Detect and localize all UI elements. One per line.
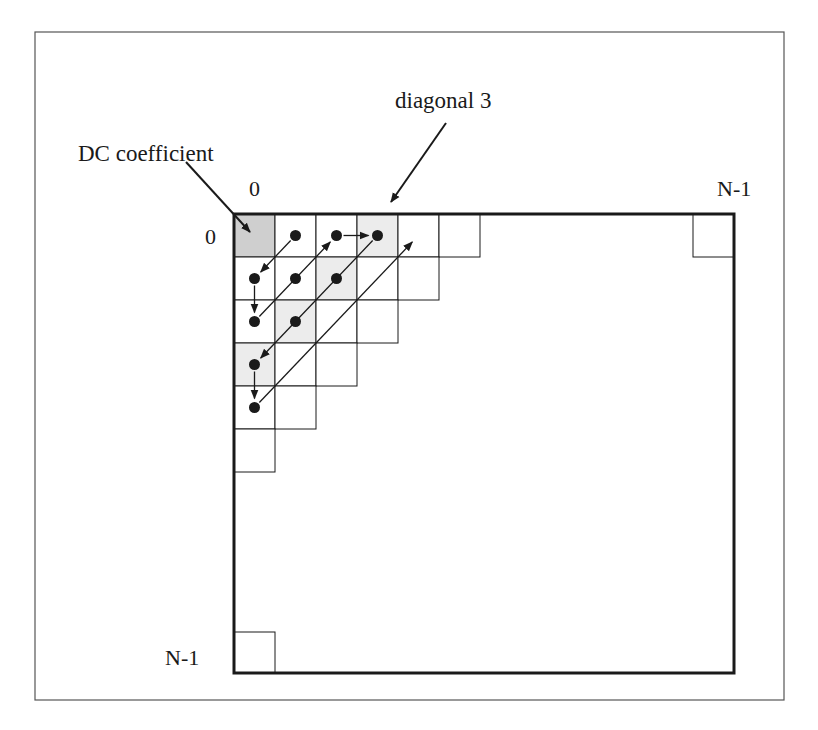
dc-callout-arrow xyxy=(186,162,250,232)
zigzag-diagram: DC coefficient diagonal 3 0 N-1 0 N-1 xyxy=(0,0,818,730)
scan-dot xyxy=(331,273,342,284)
row-end-label: N-1 xyxy=(165,645,199,670)
scan-dot xyxy=(290,273,301,284)
coefficient-cell xyxy=(316,343,357,386)
scan-dot xyxy=(249,359,260,370)
coefficient-cell xyxy=(357,300,398,343)
coefficient-cell xyxy=(275,386,316,429)
col-start-label: 0 xyxy=(249,176,260,201)
coefficient-cell xyxy=(439,214,480,257)
scan-dot xyxy=(249,316,260,327)
scan-dot xyxy=(372,230,383,241)
coefficient-cell xyxy=(398,257,439,300)
top-right-corner-cell xyxy=(693,214,734,257)
coefficient-cell xyxy=(234,429,275,472)
scan-dot xyxy=(290,230,301,241)
scan-dot xyxy=(249,273,260,284)
col-end-label: N-1 xyxy=(717,176,751,201)
row-start-label: 0 xyxy=(205,224,216,249)
scan-dot xyxy=(290,316,301,327)
diagonal-label: diagonal 3 xyxy=(395,88,491,113)
dc-coefficient-label: DC coefficient xyxy=(78,141,214,166)
scan-dot xyxy=(249,402,260,413)
outer-frame xyxy=(35,32,784,700)
diagonal-callout-arrow xyxy=(391,123,446,202)
staircase-cells xyxy=(234,214,480,472)
scan-dot xyxy=(331,230,342,241)
bottom-left-corner-cell xyxy=(234,632,275,673)
